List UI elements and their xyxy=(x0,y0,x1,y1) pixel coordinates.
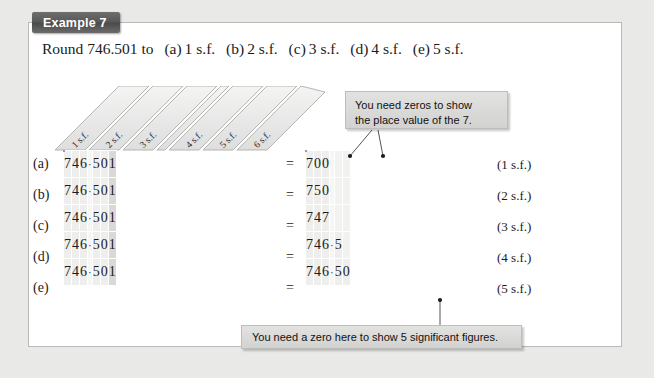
prompt-option-b: (b)2 s.f. xyxy=(226,40,282,57)
table-row: 7 4 6 · 5 0 1 xyxy=(64,205,117,232)
prompt-option-d-label: (d) xyxy=(350,40,368,57)
cell xyxy=(342,178,350,205)
result-label-1sf: (1 s.f.) xyxy=(497,157,531,173)
cell: 5 xyxy=(334,259,342,286)
column-header-slabs: 1 s.f. 2 s.f. 3 s.f. 4 s.f. 5 s.f. 6 s.f… xyxy=(55,86,325,152)
equals-sign: = xyxy=(283,249,297,265)
cell: 7 xyxy=(306,151,314,178)
row-label-d: (d) xyxy=(33,249,59,265)
table-row: 7 4 6 · 5 0 1 xyxy=(64,232,117,259)
result-label-5sf: (5 s.f.) xyxy=(497,281,531,297)
cell: 5 xyxy=(92,232,100,259)
prompt-option-e: (e)5 s.f. xyxy=(413,40,464,57)
prompt-option-c-label: (c) xyxy=(289,40,306,57)
cell: 0 xyxy=(322,178,330,205)
original-number-grid: 7 4 6 · 5 0 1 7 4 6 · 5 0 1 xyxy=(63,150,117,286)
cell: 4 xyxy=(72,259,80,286)
result-label-4sf: (4 s.f.) xyxy=(497,250,531,266)
cell: 5 xyxy=(92,205,100,232)
cell: 1 xyxy=(108,178,116,205)
cell xyxy=(334,151,342,178)
cell: 4 xyxy=(72,151,80,178)
cell: 1 xyxy=(108,259,116,286)
cell: 5 xyxy=(92,178,100,205)
callout-top-line2: the place value of the 7. xyxy=(355,113,498,128)
cell xyxy=(342,232,350,259)
table-row: 7 4 6 · 5 0 1 xyxy=(64,151,117,178)
table-row: 7 5 0 xyxy=(306,178,352,205)
table-row: 7 4 6 · 5 0 1 xyxy=(64,259,117,286)
cell: 0 xyxy=(100,151,108,178)
cell xyxy=(350,178,351,205)
prompt-option-c-text: 3 s.f. xyxy=(309,40,340,57)
prompt-option-d: (d)4 s.f. xyxy=(350,40,406,57)
cell: 1 xyxy=(108,205,116,232)
prompt-line: Round 746.501 to (a)1 s.f. (b)2 s.f. (c)… xyxy=(42,40,471,58)
prompt-option-a: (a)1 s.f. xyxy=(164,40,219,57)
cell: 0 xyxy=(314,151,322,178)
cell: 7 xyxy=(306,259,314,286)
callout-trailing-zero: You need a zero here to show 5 significa… xyxy=(241,325,522,349)
prompt-option-a-text: 1 s.f. xyxy=(185,40,216,57)
prompt-option-b-label: (b) xyxy=(226,40,244,57)
cell xyxy=(334,205,342,232)
cell: 0 xyxy=(100,232,108,259)
cell: 4 xyxy=(314,259,322,286)
row-label-b: (b) xyxy=(33,187,59,203)
cell: 7 xyxy=(64,151,72,178)
callout-zeros-place-value: You need zeros to show the place value o… xyxy=(345,91,508,129)
cell xyxy=(350,232,351,259)
table-row: 7 4 6 · 5 0 1 xyxy=(64,178,117,205)
cell: 4 xyxy=(72,205,80,232)
cell: 7 xyxy=(64,178,72,205)
cell: 5 xyxy=(92,151,100,178)
row-label-a: (a) xyxy=(33,156,59,172)
cell: 4 xyxy=(314,205,322,232)
prompt-option-e-text: 5 s.f. xyxy=(433,40,464,57)
cell xyxy=(350,259,351,286)
banner-rule xyxy=(152,22,622,23)
cell: 0 xyxy=(100,205,108,232)
table-row: 7 4 7 xyxy=(306,205,352,232)
cell xyxy=(334,178,342,205)
cell: 6 xyxy=(322,232,330,259)
cell: 5 xyxy=(92,259,100,286)
table-row: 7 4 6 · 5 0 xyxy=(306,259,352,286)
cell: 5 xyxy=(314,178,322,205)
table-row: 7 0 0 xyxy=(306,151,352,178)
table-row: 7 4 6 · 5 xyxy=(306,232,352,259)
row-label-c: (c) xyxy=(33,218,59,234)
cell: 0 xyxy=(100,178,108,205)
cell: 7 xyxy=(306,205,314,232)
cell: 6 xyxy=(80,151,88,178)
row-label-e: (e) xyxy=(33,280,59,296)
prompt-option-d-text: 4 s.f. xyxy=(371,40,402,57)
cell xyxy=(350,205,351,232)
example-banner: Example 7 xyxy=(32,12,120,33)
equals-sign: = xyxy=(283,187,297,203)
cell: 6 xyxy=(80,178,88,205)
cell: 6 xyxy=(322,259,330,286)
rounded-number-grid: 7 0 0 7 5 0 7 xyxy=(305,150,352,286)
cell: 1 xyxy=(108,232,116,259)
cell: 7 xyxy=(64,205,72,232)
callout-top-line1: You need zeros to show xyxy=(355,98,498,113)
cell: 5 xyxy=(334,232,342,259)
equals-sign: = xyxy=(283,218,297,234)
cell: 4 xyxy=(72,232,80,259)
prompt-option-e-label: (e) xyxy=(413,40,430,57)
cell: 7 xyxy=(306,178,314,205)
cell: 6 xyxy=(80,259,88,286)
callout-bottom-text: You need a zero here to show 5 significa… xyxy=(252,330,498,345)
cell: 6 xyxy=(80,232,88,259)
result-label-2sf: (2 s.f.) xyxy=(497,188,531,204)
cell: 0 xyxy=(342,259,350,286)
cell: 4 xyxy=(314,232,322,259)
equals-sign: = xyxy=(283,280,297,296)
prompt-option-a-label: (a) xyxy=(164,40,181,57)
cell: 1 xyxy=(108,151,116,178)
equals-sign: = xyxy=(283,156,297,172)
result-label-3sf: (3 s.f.) xyxy=(497,219,531,235)
cell: 6 xyxy=(80,205,88,232)
cell: 0 xyxy=(322,151,330,178)
